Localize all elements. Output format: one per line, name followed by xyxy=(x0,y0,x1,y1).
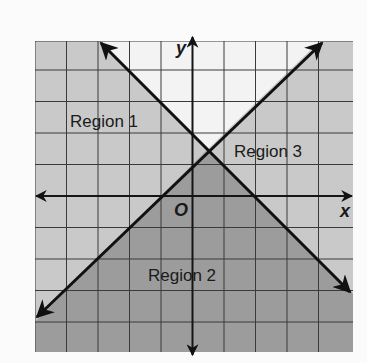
coordinate-plane-figure: y x O Region 1 Region 2 Region 3 xyxy=(0,0,367,363)
region-2-label: Region 2 xyxy=(148,266,216,285)
region-3-label: Region 3 xyxy=(234,142,302,161)
y-axis-label: y xyxy=(175,38,187,58)
x-axis-label: x xyxy=(339,201,351,221)
region-1-label: Region 1 xyxy=(70,112,138,131)
origin-label: O xyxy=(174,200,188,220)
